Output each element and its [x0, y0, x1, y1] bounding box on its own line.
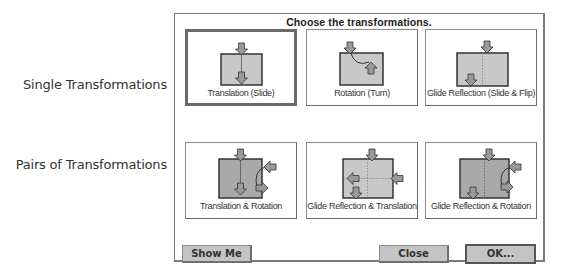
- card-caption: Translation (Slide): [188, 88, 294, 98]
- card-translation[interactable]: Translation (Slide): [185, 29, 297, 106]
- rotation-icon: [307, 30, 417, 88]
- card-caption: Glide Reflection (Slide & Flip): [426, 88, 536, 98]
- card-glide-reflection-rotation[interactable]: Glide Reflection & Rotation: [425, 142, 537, 219]
- single-transformations-label: Single Transformations: [23, 77, 167, 92]
- transformations-dialog: Choose the transformations. Translation …: [174, 13, 545, 262]
- card-caption: Glide Reflection & Rotation: [426, 201, 536, 211]
- card-translation-rotation[interactable]: Translation & Rotation: [185, 142, 297, 219]
- card-caption: Translation & Rotation: [186, 201, 296, 211]
- show-me-button[interactable]: Show Me: [182, 245, 252, 263]
- card-caption: Rotation (Turn): [307, 88, 417, 98]
- card-glide-reflection-translation[interactable]: Glide Reflection & Translation: [306, 142, 418, 219]
- card-rotation[interactable]: Rotation (Turn): [306, 29, 418, 106]
- dialog-title: Choose the transformations.: [175, 16, 543, 28]
- card-glide-reflection[interactable]: Glide Reflection (Slide & Flip): [425, 29, 537, 106]
- glide-reflection-translation-icon: [307, 143, 419, 201]
- glide-reflection-rotation-icon: [426, 143, 538, 201]
- close-button[interactable]: Close: [379, 245, 449, 263]
- glide-reflection-icon: [426, 30, 538, 88]
- pairs-of-transformations-label: Pairs of Transformations: [16, 157, 167, 172]
- card-caption: Glide Reflection & Translation: [307, 201, 417, 211]
- ok-button[interactable]: OK...: [465, 244, 536, 264]
- translation-icon: [188, 32, 294, 88]
- translation-rotation-icon: [186, 143, 298, 201]
